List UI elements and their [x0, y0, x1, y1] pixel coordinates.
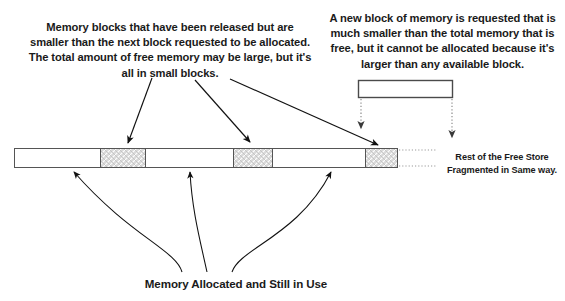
pointer-to-free-block-3 — [230, 79, 378, 145]
memory-bar — [15, 149, 398, 168]
free-block-2 — [146, 149, 234, 168]
free-block-3 — [273, 149, 366, 168]
requested-block-note: A new block of memory is requested that … — [326, 11, 559, 72]
curve-pointer-2 — [190, 172, 207, 272]
rest-of-free-store-caption: Rest of the Free Store Fragmented in Sam… — [440, 151, 564, 178]
free-block-1 — [15, 149, 101, 168]
pointer-to-free-block-2 — [195, 80, 250, 142]
allocated-block-pointers — [74, 172, 331, 272]
pointer-to-free-block-1 — [128, 78, 152, 143]
used-block-1 — [101, 149, 146, 168]
free-block-pointers — [128, 78, 378, 145]
used-block-2 — [234, 149, 273, 168]
fragmentation-diagram: Memory blocks that have been released bu… — [0, 0, 565, 301]
leader-lines — [399, 150, 437, 166]
fragmented-memory-note: Memory blocks that have been released bu… — [26, 20, 314, 81]
memory-allocated-caption: Memory Allocated and Still in Use — [118, 276, 354, 292]
curve-pointer-3 — [232, 172, 331, 272]
requested-memory-block — [359, 81, 453, 98]
request-size-indicators — [361, 99, 452, 137]
used-block-3 — [366, 149, 398, 168]
curve-pointer-1 — [74, 172, 182, 272]
